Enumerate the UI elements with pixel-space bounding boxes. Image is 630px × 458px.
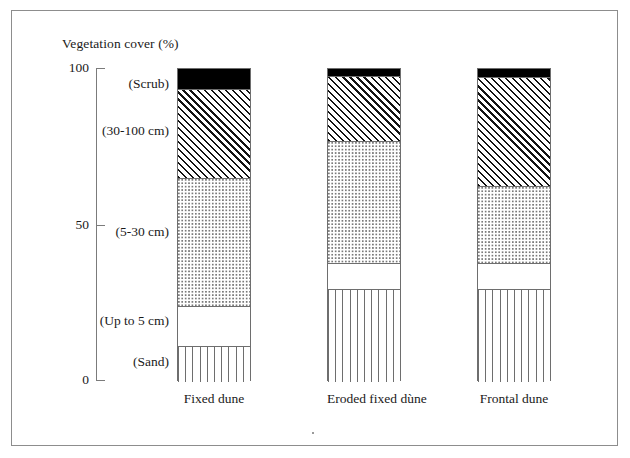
segment-5-30cm: [178, 178, 250, 306]
segment-up-to-5cm: [478, 263, 550, 289]
y-axis-title: Vegetation cover (%): [62, 36, 179, 52]
segment-sand: [478, 289, 550, 382]
y-tick-mark-0: [96, 380, 105, 381]
layer-label-low: (Up to 5 cm): [100, 313, 169, 329]
bar-eroded-fixed-dune: [327, 68, 401, 381]
segment-scrub: [328, 69, 400, 76]
bar-fixed-dune: [177, 68, 251, 381]
segment-30-100cm: [178, 89, 250, 178]
segment-up-to-5cm: [178, 306, 250, 346]
segment-30-100cm: [328, 76, 400, 141]
bar-frontal-dune: [477, 68, 551, 381]
x-label-eroded-fixed-dune: Eroded fixed dùne: [327, 391, 401, 407]
print-speck: [312, 432, 314, 434]
segment-sand: [178, 346, 250, 382]
segment-sand: [328, 289, 400, 382]
y-tick-mark-50: [96, 225, 105, 226]
segment-scrub: [178, 69, 250, 89]
y-tick-label-50: 50: [55, 217, 89, 233]
segment-scrub: [478, 69, 550, 77]
layer-label-tall: (30-100 cm): [102, 123, 169, 139]
y-tick-mark-100: [96, 68, 105, 69]
segment-5-30cm: [328, 141, 400, 263]
figure-root: Vegetation cover (%) 100 50 0 (Scrub) (3…: [0, 0, 630, 458]
x-label-fixed-dune: Fixed dune: [177, 391, 251, 407]
segment-30-100cm: [478, 77, 550, 186]
x-label-frontal-dune: Frontal dune: [477, 391, 551, 407]
segment-up-to-5cm: [328, 263, 400, 289]
layer-label-scrub: (Scrub): [129, 76, 170, 92]
y-tick-label-100: 100: [55, 60, 89, 76]
y-tick-label-0: 0: [55, 372, 89, 388]
segment-5-30cm: [478, 186, 550, 263]
layer-label-mid: (5-30 cm): [115, 224, 169, 240]
layer-label-sand: (Sand): [133, 354, 169, 370]
